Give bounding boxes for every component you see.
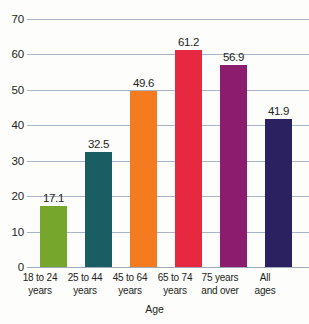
x-label-all-ages: All ages <box>237 272 293 297</box>
x-axis-title: Age <box>0 303 309 315</box>
bar-18-to-24[interactable]: 17.1 <box>40 206 67 267</box>
bar-value-label: 61.2 <box>178 36 199 48</box>
gridline-60 <box>27 54 309 55</box>
y-tick-30: 30 <box>0 155 24 167</box>
x-label-line2: ages <box>237 285 293 298</box>
bar-value-label: 41.9 <box>268 105 289 117</box>
bar-75-and-over[interactable]: 56.9 <box>220 65 247 267</box>
y-tick-10: 10 <box>0 226 24 238</box>
bar-value-label: 56.9 <box>223 51 244 63</box>
bar-65-to-74[interactable]: 61.2 <box>175 50 202 267</box>
gridline-70 <box>27 19 309 20</box>
bar-25-to-44[interactable]: 32.5 <box>85 152 112 267</box>
bar-value-label: 49.6 <box>133 77 154 89</box>
bar-chart: 70 60 50 40 30 20 10 0 17.1 32.5 49.6 61… <box>0 0 309 324</box>
y-tick-40: 40 <box>0 119 24 131</box>
x-label-line1: All <box>237 272 293 285</box>
y-tick-20: 20 <box>0 190 24 202</box>
plot-area: 17.1 32.5 49.6 61.2 56.9 41.9 <box>27 19 309 267</box>
y-tick-50: 50 <box>0 84 24 96</box>
y-tick-70: 70 <box>0 13 24 25</box>
gridline-50 <box>27 90 309 91</box>
bar-value-label: 17.1 <box>43 192 64 204</box>
bar-all-ages[interactable]: 41.9 <box>265 119 292 268</box>
y-tick-60: 60 <box>0 48 24 60</box>
bar-value-label: 32.5 <box>88 138 109 150</box>
gridline-baseline-0 <box>27 267 309 268</box>
bar-45-to-64[interactable]: 49.6 <box>130 91 157 267</box>
